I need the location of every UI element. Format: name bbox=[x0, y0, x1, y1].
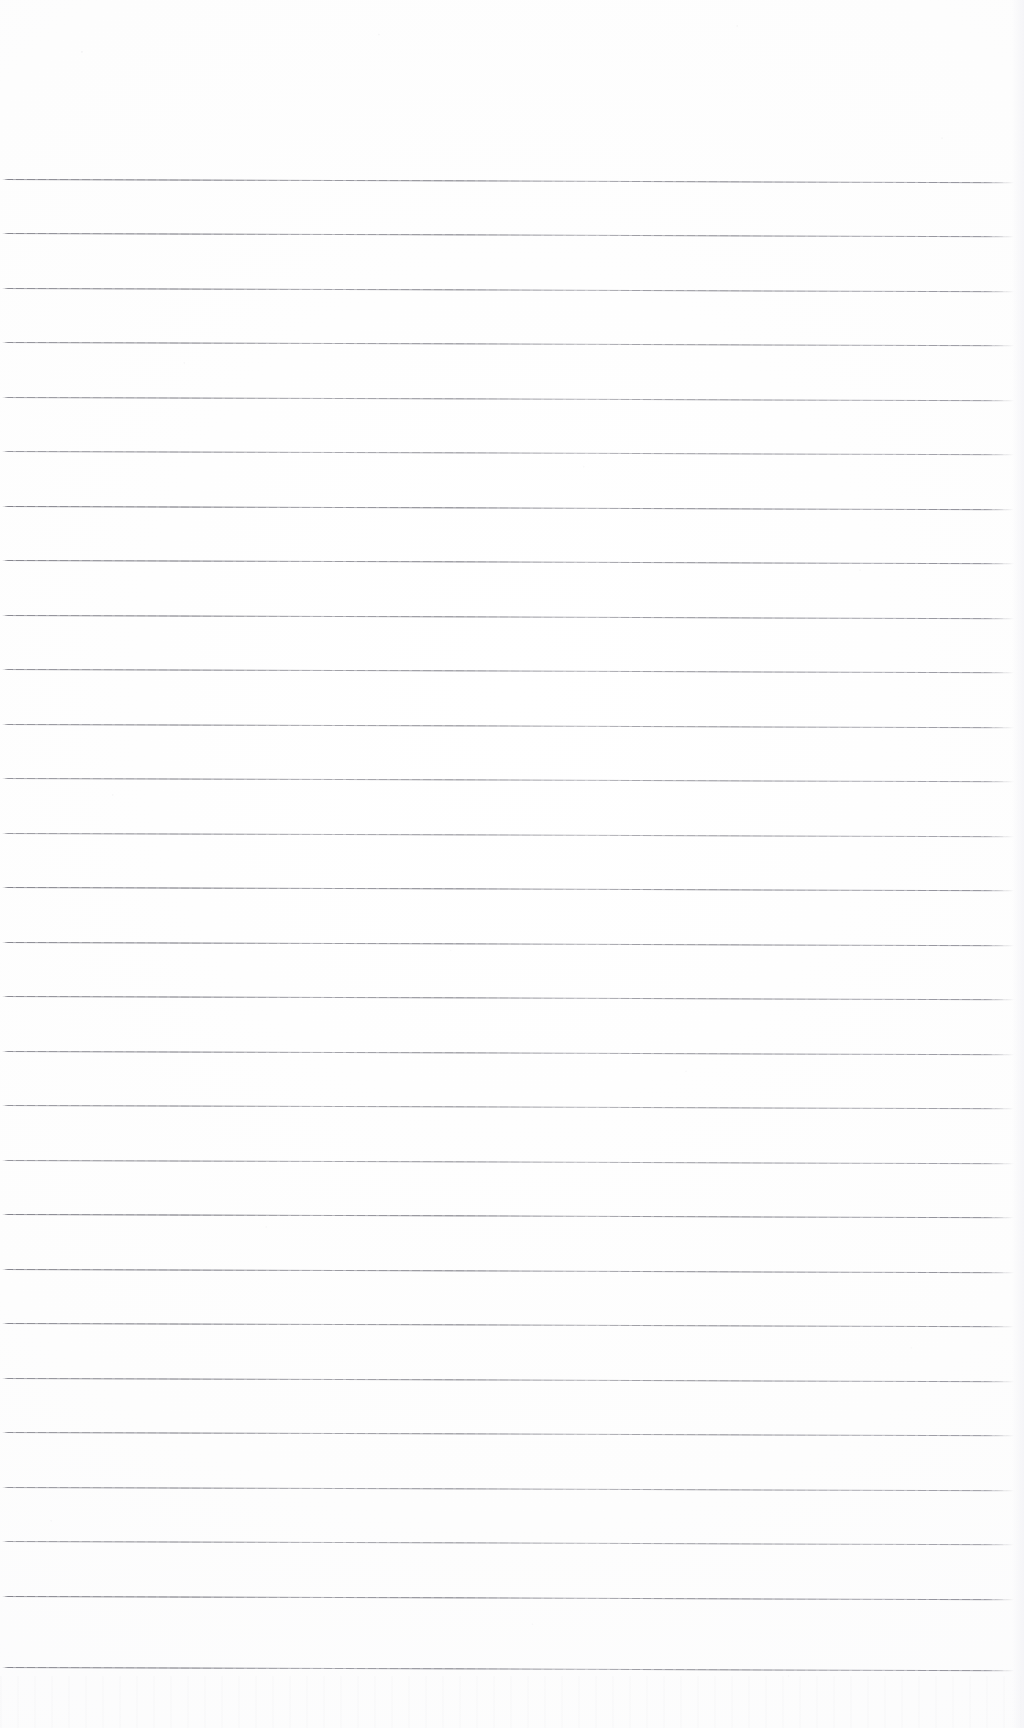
ruled-line bbox=[2, 451, 1014, 455]
ruled-line bbox=[2, 1323, 1014, 1327]
ruled-line bbox=[2, 669, 1014, 673]
ruled-line bbox=[2, 560, 1014, 564]
ruled-line bbox=[2, 615, 1014, 619]
ruled-line bbox=[2, 288, 1014, 292]
ruled-line bbox=[2, 778, 1014, 782]
ruled-line bbox=[2, 397, 1014, 401]
ruled-line bbox=[2, 1051, 1014, 1055]
ruled-line bbox=[2, 1541, 1014, 1545]
ruled-line bbox=[2, 1269, 1014, 1273]
ruled-line bbox=[2, 1667, 1014, 1671]
ruled-line bbox=[2, 1378, 1014, 1382]
ruled-line bbox=[2, 1596, 1014, 1600]
ruled-line bbox=[2, 1432, 1014, 1436]
ruled-line bbox=[2, 942, 1014, 946]
ruled-line bbox=[2, 233, 1014, 237]
ruled-line bbox=[2, 179, 1014, 183]
ruled-line bbox=[2, 506, 1014, 510]
ruled-lines-group bbox=[0, 0, 1024, 1728]
ruled-line bbox=[2, 996, 1014, 1000]
ruled-line bbox=[2, 887, 1014, 891]
ruled-line bbox=[2, 1160, 1014, 1164]
ruled-line bbox=[2, 833, 1014, 837]
ruled-line bbox=[2, 1487, 1014, 1491]
ruled-line bbox=[2, 342, 1014, 346]
scanned-page bbox=[0, 0, 1024, 1728]
ruled-line bbox=[2, 1214, 1014, 1218]
ruled-line bbox=[2, 1105, 1014, 1109]
ruled-line bbox=[2, 724, 1014, 728]
